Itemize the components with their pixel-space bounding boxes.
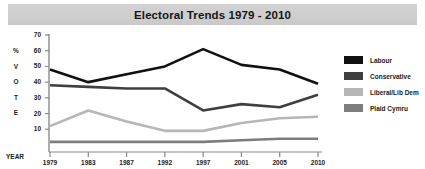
- legend-label: Plaid Cymru: [370, 105, 408, 112]
- legend-item-labour[interactable]: Labour: [344, 52, 419, 68]
- series-line-liberal-lib-dem: [50, 110, 318, 130]
- legend-item-plaid-cymru[interactable]: Plaid Cymru: [344, 100, 419, 116]
- electoral-trends-chart: Electoral Trends 1979 - 2010 % V O T E Y…: [0, 0, 425, 169]
- legend-label: Liberal/Lib Dem: [370, 89, 419, 96]
- page-title: Electoral Trends 1979 - 2010: [134, 9, 291, 21]
- axis-lines: [49, 34, 322, 152]
- legend-label: Conservative: [370, 73, 411, 80]
- legend-swatch-icon: [344, 72, 363, 80]
- legend-item-liberal-lib-dem[interactable]: Liberal/Lib Dem: [344, 84, 419, 100]
- legend-swatch-icon: [344, 104, 363, 112]
- chart-legend: LabourConservativeLiberal/Lib DemPlaid C…: [344, 52, 419, 116]
- series-line-plaid-cymru: [50, 139, 318, 142]
- series-line-conservative: [50, 85, 318, 110]
- series-line-labour: [50, 49, 318, 84]
- chart-title-band: Electoral Trends 1979 - 2010: [8, 4, 417, 25]
- legend-swatch-icon: [344, 88, 363, 96]
- legend-swatch-icon: [344, 56, 363, 64]
- legend-label: Labour: [370, 57, 392, 64]
- legend-item-conservative[interactable]: Conservative: [344, 68, 419, 84]
